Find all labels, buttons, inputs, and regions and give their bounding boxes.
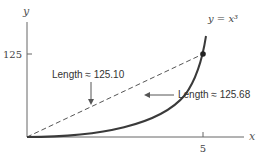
x-tick-label: 5 — [200, 143, 206, 154]
chord-line — [27, 54, 203, 137]
endpoint-marker — [200, 51, 206, 57]
arc-length-diagram: y x 125 5 y = x³ Length ≈ 125.10 Length … — [0, 0, 261, 157]
y-axis-label: y — [22, 5, 30, 18]
chord-length-label: Length ≈ 125.10 — [52, 69, 125, 80]
arc-arrow-head — [144, 92, 150, 98]
y-tick-label: 125 — [3, 49, 22, 60]
cubic-curve — [27, 36, 206, 137]
arc-length-label: Length ≈ 125.68 — [178, 89, 251, 100]
x-axis-label: x — [249, 130, 256, 143]
curve-label: y = x³ — [207, 13, 238, 24]
chord-arrow-head — [88, 99, 94, 105]
